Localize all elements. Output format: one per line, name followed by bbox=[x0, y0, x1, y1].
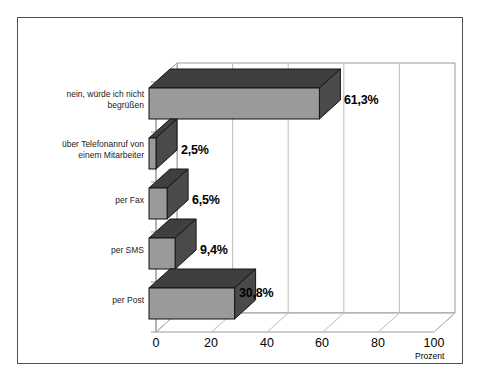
category-label-line2: einem Mitarbeiter bbox=[78, 150, 144, 160]
category-label-per-fax: per Fax bbox=[26, 195, 144, 206]
category-label-line1: nein, würde ich nicht bbox=[67, 89, 145, 99]
category-label-line1: per Fax bbox=[115, 195, 144, 205]
bar-3d-nein-wuerde-ich-nicht-begruessen[interactable] bbox=[149, 69, 340, 119]
category-label-line1: per Post bbox=[112, 295, 144, 305]
value-label-per-fax: 6,5% bbox=[192, 193, 220, 207]
category-label-ueber-telefonanruf-von-einem-mitarbeiter: über Telefonanruf von einem Mitarbeiter bbox=[20, 139, 144, 161]
plot-area bbox=[0, 0, 483, 382]
value-label-per-post: 30,8% bbox=[239, 286, 273, 300]
axis-title-prozent: Prozent bbox=[415, 351, 444, 361]
category-label-line1: über Telefonanruf von bbox=[62, 139, 144, 149]
xtick-label-20: 20 bbox=[191, 336, 231, 350]
category-label-line1: per SMS bbox=[111, 245, 144, 255]
value-label-per-sms: 9,4% bbox=[200, 243, 228, 257]
chart-figure: nein, würde ich nicht begrüßen über Tele… bbox=[0, 0, 483, 382]
value-label-ueber-telefonanruf-von-einem-mitarbeiter: 2,5% bbox=[181, 143, 209, 157]
xtick-label-100: 100 bbox=[414, 336, 454, 350]
category-label-nein-wuerde-ich-nicht-begruessen: nein, würde ich nicht begrüßen bbox=[26, 89, 144, 111]
xtick-label-60: 60 bbox=[302, 336, 342, 350]
category-label-per-sms: per SMS bbox=[26, 245, 144, 256]
xtick-label-40: 40 bbox=[247, 336, 287, 350]
value-label-nein-wuerde-ich-nicht-begruessen: 61,3% bbox=[344, 93, 378, 107]
category-label-per-post: per Post bbox=[26, 295, 144, 306]
category-label-line2: begrüßen bbox=[108, 100, 144, 110]
xtick-label-0: 0 bbox=[136, 336, 176, 350]
xtick-label-80: 80 bbox=[358, 336, 398, 350]
